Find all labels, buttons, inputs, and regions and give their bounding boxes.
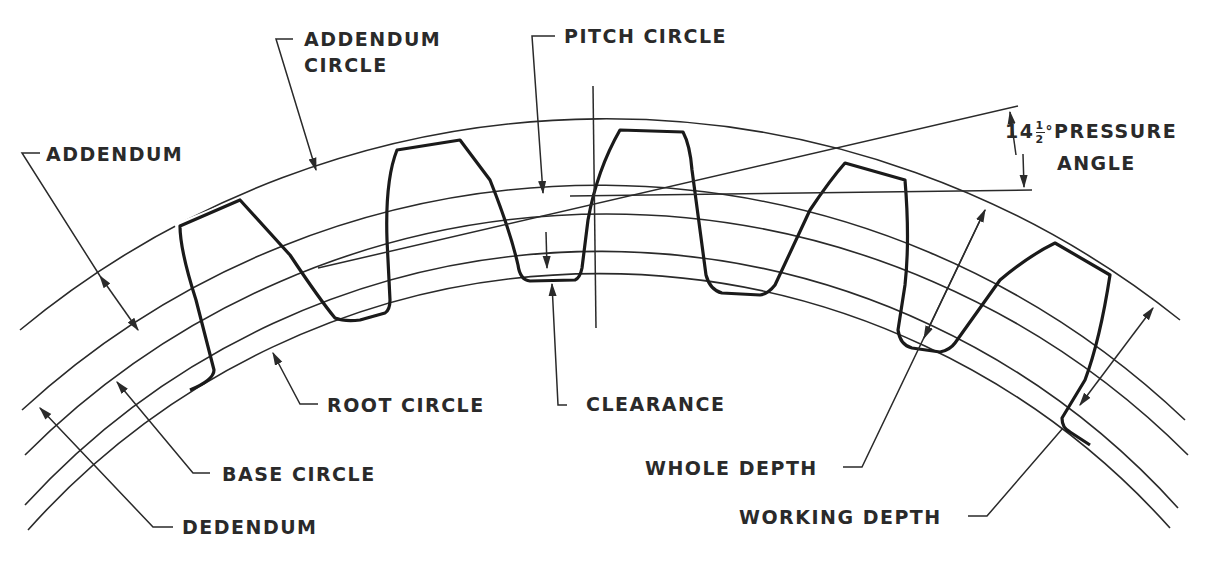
root-circle-label: ROOT CIRCLE bbox=[327, 392, 485, 418]
addendum-circle-label-line2: CIRCLE bbox=[304, 52, 441, 78]
addendum-circle-label: ADDENDUM CIRCLE bbox=[304, 26, 441, 78]
pressure-angle-fraction: 12 bbox=[1035, 120, 1044, 145]
construction-lines bbox=[318, 86, 1032, 328]
pressure-angle-whole: 14 bbox=[1005, 120, 1034, 142]
center-line bbox=[593, 86, 596, 328]
dedendum-label: DEDENDUM bbox=[182, 514, 318, 540]
concentric-circles bbox=[20, 119, 1188, 530]
working-depth-label: WORKING DEPTH bbox=[739, 504, 942, 530]
degree-symbol: ° bbox=[1046, 123, 1055, 139]
pressure-angle-label-line2: ANGLE bbox=[1057, 150, 1136, 176]
whole-depth-label: WHOLE DEPTH bbox=[645, 455, 818, 481]
clearance-label: CLEARANCE bbox=[586, 391, 725, 417]
working-depth-circle bbox=[25, 251, 1178, 508]
addendum-circle-label-line1: ADDENDUM bbox=[304, 26, 441, 52]
pressure-angle-line1: PRESSURE bbox=[1054, 120, 1177, 142]
fraction-numerator: 1 bbox=[1035, 120, 1044, 131]
fraction-denominator: 2 bbox=[1035, 134, 1044, 145]
addendum-label: ADDENDUM bbox=[46, 141, 183, 167]
gear-drawing bbox=[0, 0, 1208, 561]
base-circle bbox=[25, 214, 1188, 455]
pressure-angle-label: 1412°PRESSURE bbox=[1005, 118, 1177, 145]
tooth-gaps bbox=[175, 130, 1100, 278]
gear-nomenclature-diagram: ADDENDUM CIRCLE PITCH CIRCLE ADDENDUM 14… bbox=[0, 0, 1208, 561]
pitch-circle-label: PITCH CIRCLE bbox=[564, 23, 727, 49]
base-circle-label: BASE CIRCLE bbox=[222, 461, 376, 487]
